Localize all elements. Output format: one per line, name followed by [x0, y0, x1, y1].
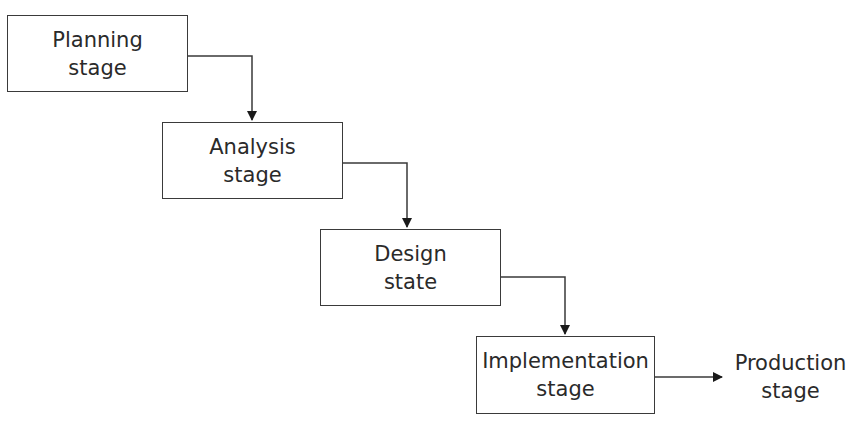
analysis-stage-line1: Analysis	[209, 133, 296, 161]
design-state-line2: state	[384, 268, 437, 296]
implementation-stage-line1: Implementation	[482, 347, 649, 375]
production-stage-line1: Production	[728, 349, 853, 377]
analysis-stage-box: Analysis stage	[162, 122, 343, 199]
production-stage-line2: stage	[728, 377, 853, 405]
design-state-box: Design state	[320, 229, 501, 306]
planning-stage-box: Planning stage	[7, 15, 188, 92]
planning-stage-line1: Planning	[52, 26, 142, 54]
production-stage-label: Production stage	[728, 349, 853, 405]
design-state-line1: Design	[374, 240, 447, 268]
implementation-stage-box: Implementation stage	[476, 336, 655, 414]
analysis-stage-line2: stage	[223, 161, 281, 189]
arrow-analysis-to-design	[343, 163, 407, 227]
implementation-stage-line2: stage	[536, 375, 594, 403]
arrow-planning-to-analysis	[188, 56, 252, 120]
planning-stage-line2: stage	[68, 54, 126, 82]
arrow-design-to-implementation	[501, 277, 565, 334]
